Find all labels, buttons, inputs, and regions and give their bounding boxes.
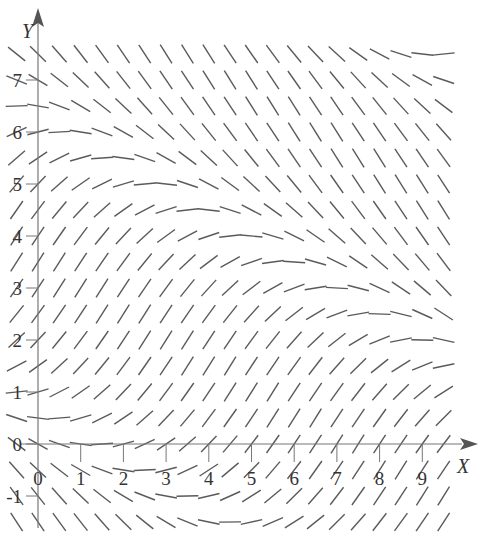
slope-segment <box>286 203 302 218</box>
slope-segment <box>433 364 455 369</box>
slope-segment <box>310 409 322 428</box>
slope-segment <box>93 99 110 112</box>
slope-segment <box>224 97 236 115</box>
slope-segment <box>306 308 325 319</box>
slope-segment <box>412 362 432 370</box>
slope-segment <box>139 45 151 63</box>
slope-segment <box>262 233 283 239</box>
slope-segment <box>438 461 450 479</box>
slope-segment <box>284 231 304 241</box>
slope-segment <box>139 279 152 297</box>
slope-segment <box>178 231 197 241</box>
slope-segment <box>53 227 66 245</box>
slope-segment <box>391 51 412 58</box>
slope-segment <box>92 128 113 136</box>
slope-segment <box>395 487 407 505</box>
slope-segment <box>181 305 194 323</box>
slope-segment <box>438 175 450 193</box>
slope-segment <box>390 311 411 316</box>
slope-segment <box>349 334 368 345</box>
slope-segment <box>72 386 90 399</box>
slope-segment <box>395 513 408 531</box>
slope-segment <box>177 181 198 188</box>
slope-segment <box>436 280 451 296</box>
slope-segment <box>349 256 367 268</box>
slope-segments <box>6 45 455 532</box>
slope-segment <box>7 361 27 371</box>
slope-segment <box>51 463 69 476</box>
slope-segment <box>203 357 215 376</box>
slope-segment <box>74 227 87 245</box>
slope-segment <box>134 183 156 185</box>
slope-segment <box>160 331 172 350</box>
slope-segment <box>371 359 388 373</box>
slope-segment <box>117 71 131 88</box>
slope-segment <box>241 258 262 265</box>
slope-segment <box>160 305 172 323</box>
slope-segment <box>352 175 364 193</box>
slope-segment <box>114 127 133 138</box>
slope-segment <box>434 386 453 398</box>
slope-segment <box>246 71 258 90</box>
slope-segment <box>220 207 241 214</box>
slope-segment <box>434 308 453 320</box>
slope-segment <box>155 494 177 498</box>
y-tick-label: 0 <box>13 434 23 455</box>
slope-segment <box>223 305 237 322</box>
slope-segment <box>157 516 176 527</box>
slope-segment <box>48 417 70 419</box>
slope-segment <box>329 47 345 62</box>
slope-segment <box>203 331 215 349</box>
slope-segment <box>155 183 177 186</box>
slope-segment <box>74 331 87 349</box>
slope-segment <box>70 155 91 161</box>
slope-segment <box>51 359 67 374</box>
slope-segment <box>74 45 88 62</box>
y-tick-label: -1 <box>6 486 22 507</box>
slope-segment <box>309 461 322 479</box>
slope-segment <box>9 462 24 478</box>
slope-segment <box>414 281 431 295</box>
slope-segment <box>198 233 219 240</box>
slope-segment <box>244 306 259 322</box>
slope-segment <box>181 71 193 89</box>
slope-segment <box>262 261 284 264</box>
slope-segment <box>134 470 156 471</box>
slope-segment <box>266 462 280 479</box>
slope-segment <box>73 488 89 503</box>
slope-segment <box>118 305 130 324</box>
slope-segment <box>159 410 174 426</box>
slope-segment <box>224 45 236 63</box>
slope-segment <box>95 514 110 530</box>
slope-segment <box>390 338 412 342</box>
slope-segment <box>179 255 195 270</box>
slope-segment <box>308 332 324 347</box>
x-tick-label: 7 <box>332 468 342 489</box>
y-tick-label: 6 <box>13 122 23 143</box>
slope-segment <box>328 333 345 347</box>
slope-segment <box>139 331 151 350</box>
slope-segment <box>52 202 66 219</box>
slope-segment <box>309 71 322 89</box>
slope-segment <box>181 383 194 401</box>
slope-segment <box>331 123 343 142</box>
slope-segment <box>245 45 258 63</box>
slope-segment <box>96 331 109 349</box>
slope-field-chart: 0123456789-101234567 X Y <box>0 0 483 545</box>
slope-segment <box>160 357 172 375</box>
slope-segment <box>308 46 323 62</box>
slope-segment <box>286 488 302 504</box>
slope-segment <box>224 71 236 90</box>
slope-segment <box>91 157 113 159</box>
slope-segment <box>371 255 388 269</box>
slope-segment <box>241 520 262 525</box>
slope-segment <box>134 154 155 161</box>
slope-segment <box>159 254 174 270</box>
slope-segment <box>330 72 344 89</box>
slope-segment <box>136 515 153 529</box>
slope-segment <box>157 230 175 243</box>
slope-segment <box>113 157 135 160</box>
slope-segment <box>73 72 89 87</box>
slope-segment <box>223 150 238 166</box>
slope-segment <box>93 489 110 503</box>
